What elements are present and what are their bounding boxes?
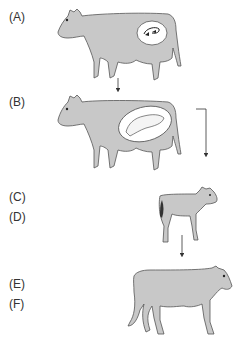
calf-eye-icon <box>209 194 211 196</box>
grown-cow-body <box>128 266 232 334</box>
cow-b-illustration <box>58 95 181 170</box>
grown-cow-eye-icon <box>223 275 225 277</box>
calf-illustration <box>159 187 217 242</box>
grown-cow-illustration <box>128 266 232 334</box>
cow-a-body <box>58 9 181 80</box>
cow-a-eye-icon <box>66 19 68 21</box>
cow-a-illustration <box>58 9 181 80</box>
cow-b-eye-icon <box>66 108 68 110</box>
arrow-b-to-c-icon <box>196 109 206 155</box>
calf-body <box>159 187 217 242</box>
